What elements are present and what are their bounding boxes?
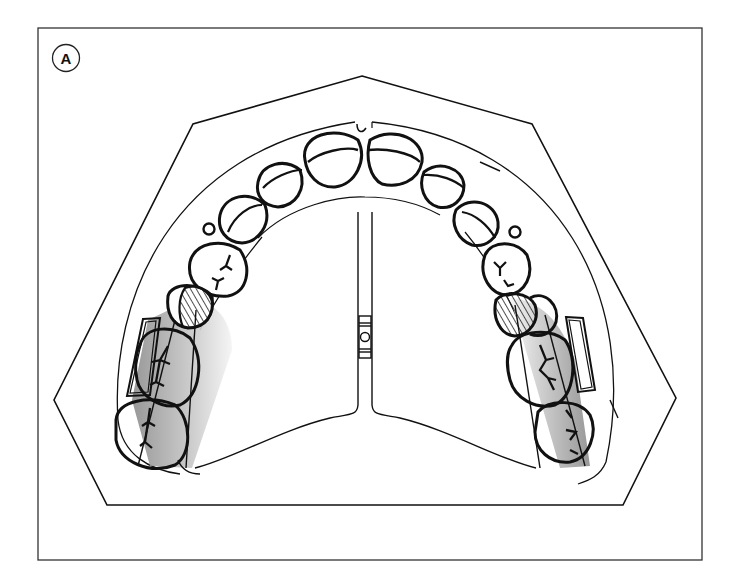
panel-label-text: A (61, 50, 72, 67)
palatal-arch-line (258, 197, 440, 238)
dental-arch-diagram: A (0, 0, 730, 586)
premolar-fissures (212, 255, 514, 290)
figure-frame (38, 28, 702, 560)
hook-right (510, 227, 521, 238)
hook-left (204, 224, 215, 235)
expansion-screw (359, 316, 371, 358)
panel-label: A (53, 45, 80, 72)
incisive-papilla (357, 124, 366, 131)
premolars (189, 243, 529, 296)
anterior-teeth (219, 133, 498, 246)
